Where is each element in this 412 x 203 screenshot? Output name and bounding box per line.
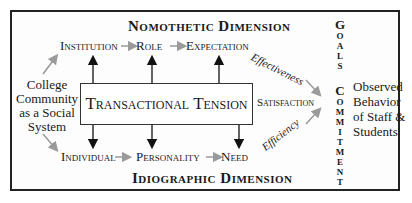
node-personality: Personality <box>136 149 200 165</box>
node-individual: Individual <box>61 149 116 165</box>
node-institution: Institution <box>60 38 118 54</box>
nomothetic-dimension-heading: Nomothetic Dimension <box>128 18 291 35</box>
college-community-label: College Community as a Social System <box>16 78 78 134</box>
node-expectation: Expectation <box>186 38 249 54</box>
commitment-vertical-text: C O M M I T M E N T <box>333 84 347 187</box>
satisfaction-label: Satisfaction <box>257 96 314 108</box>
node-role: Role <box>136 38 162 54</box>
observed-behavior-label: Observed Behavior of Staff & Students <box>353 79 405 139</box>
node-need: Need <box>221 149 248 165</box>
goals-vertical-text: G O A L S <box>333 18 347 71</box>
transactional-tension-box: Transactional Tension <box>80 83 253 125</box>
idiographic-dimension-heading: Idiographic Dimension <box>132 170 293 187</box>
